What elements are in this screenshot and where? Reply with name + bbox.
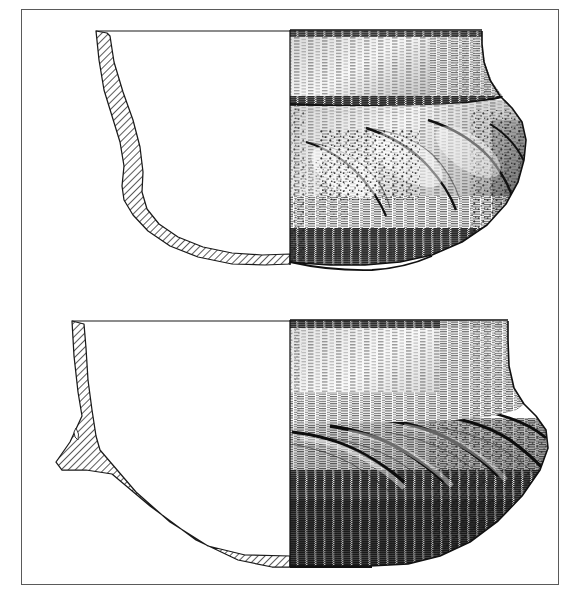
upper-vessel-figure: [96, 28, 532, 270]
illustration-plate: Archaeological pottery profile drawing p…: [0, 0, 575, 600]
upper-neck-texture: [288, 28, 529, 110]
pottery-drawings: [0, 0, 575, 600]
lower-interior-void: [84, 324, 290, 556]
lower-vessel-figure: [56, 318, 550, 570]
